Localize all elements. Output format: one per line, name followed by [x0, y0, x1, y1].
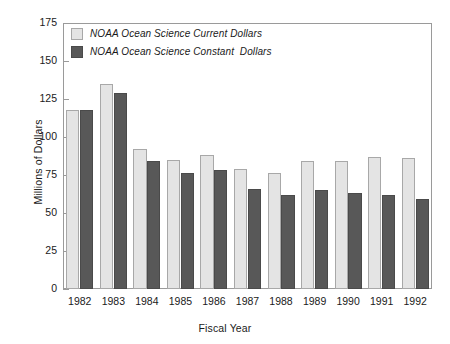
legend-swatch [71, 46, 83, 58]
bar [181, 173, 194, 289]
bar [368, 157, 381, 289]
bar [80, 110, 93, 289]
legend: NOAA Ocean Science Current DollarsNOAA O… [71, 27, 272, 58]
bar [234, 169, 247, 289]
bar-chart: Millions of Dollars 0255075100125150175 … [0, 0, 450, 344]
bar [416, 199, 429, 289]
bar [114, 93, 127, 289]
bar [133, 149, 146, 289]
bar [281, 195, 294, 289]
y-tick-label: 25 [17, 245, 57, 256]
bar [214, 170, 227, 289]
legend-label: NOAA Ocean Science Constant Dollars [90, 46, 272, 57]
bar [402, 158, 415, 289]
legend-swatch [71, 28, 83, 40]
bar [100, 84, 113, 289]
bar [200, 155, 213, 289]
y-tick-label: 0 [17, 283, 57, 294]
bar [66, 110, 79, 289]
bar [248, 189, 261, 289]
bar [335, 161, 348, 289]
y-tick-mark [63, 289, 69, 290]
bar [315, 190, 328, 289]
bar [348, 193, 361, 289]
y-tick-mark [63, 61, 69, 62]
x-axis-title: Fiscal Year [0, 322, 450, 334]
y-tick-label: 50 [17, 207, 57, 218]
legend-item: NOAA Ocean Science Constant Dollars [71, 45, 272, 58]
bar [301, 161, 314, 289]
bar [147, 161, 160, 289]
y-tick-label: 100 [17, 131, 57, 142]
y-tick-label: 75 [17, 169, 57, 180]
x-tick-label: 1992 [390, 296, 440, 307]
legend-item: NOAA Ocean Science Current Dollars [71, 27, 272, 40]
y-tick-mark [63, 99, 69, 100]
bar [268, 173, 281, 289]
y-tick-mark [63, 23, 69, 24]
legend-label: NOAA Ocean Science Current Dollars [90, 28, 262, 39]
y-tick-label: 150 [17, 55, 57, 66]
bar [167, 160, 180, 289]
bar [382, 195, 395, 289]
y-tick-label: 175 [17, 17, 57, 28]
y-tick-label: 125 [17, 93, 57, 104]
